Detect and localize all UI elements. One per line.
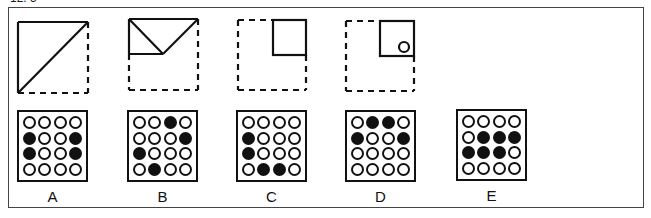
empty-dot-icon — [23, 163, 36, 176]
empty-dot-icon — [54, 132, 67, 145]
empty-dot-icon — [382, 163, 395, 176]
empty-dot-icon — [242, 163, 255, 176]
filled-dot-icon — [133, 147, 146, 160]
empty-dot-icon — [23, 116, 36, 129]
empty-dot-icon — [351, 116, 364, 129]
empty-dot-icon — [179, 163, 192, 176]
option-e-grid[interactable] — [456, 109, 527, 181]
empty-dot-icon — [164, 132, 177, 145]
empty-dot-icon — [508, 115, 521, 128]
filled-dot-icon — [462, 146, 475, 159]
empty-dot-icon — [148, 147, 161, 160]
empty-dot-icon — [54, 163, 67, 176]
empty-dot-icon — [273, 132, 286, 145]
empty-dot-icon — [54, 147, 67, 160]
filled-dot-icon — [382, 116, 395, 129]
option-a-label[interactable]: A — [17, 188, 88, 205]
filled-dot-icon — [23, 132, 36, 145]
option-e-label[interactable]: E — [456, 187, 527, 204]
filled-dot-icon — [493, 131, 506, 144]
empty-dot-icon — [133, 163, 146, 176]
empty-dot-icon — [273, 116, 286, 129]
empty-dot-icon — [477, 162, 490, 175]
filled-dot-icon — [242, 147, 255, 160]
empty-dot-icon — [38, 132, 51, 145]
empty-dot-icon — [288, 116, 301, 129]
empty-dot-icon — [148, 132, 161, 145]
empty-dot-icon — [242, 116, 255, 129]
empty-dot-icon — [351, 163, 364, 176]
empty-dot-icon — [69, 163, 82, 176]
empty-dot-icon — [288, 147, 301, 160]
filled-dot-icon — [397, 132, 410, 145]
fold-figure-4 — [346, 21, 414, 91]
empty-dot-icon — [133, 132, 146, 145]
filled-dot-icon — [273, 163, 286, 176]
filled-dot-icon — [148, 163, 161, 176]
empty-dot-icon — [38, 163, 51, 176]
empty-dot-icon — [493, 115, 506, 128]
filled-dot-icon — [257, 163, 270, 176]
option-c-label[interactable]: C — [236, 188, 307, 205]
filled-dot-icon — [508, 131, 521, 144]
option-d-grid[interactable] — [345, 110, 416, 182]
filled-dot-icon — [69, 147, 82, 160]
empty-dot-icon — [366, 132, 379, 145]
fold-figure-1 — [0, 0, 651, 218]
empty-dot-icon — [179, 147, 192, 160]
empty-dot-icon — [164, 147, 177, 160]
empty-dot-icon — [477, 115, 490, 128]
empty-dot-icon — [257, 116, 270, 129]
empty-dot-icon — [382, 147, 395, 160]
punched-hole-icon — [399, 42, 409, 52]
empty-dot-icon — [351, 147, 364, 160]
empty-dot-icon — [493, 162, 506, 175]
filled-dot-icon — [242, 132, 255, 145]
empty-dot-icon — [366, 163, 379, 176]
empty-dot-icon — [366, 147, 379, 160]
option-b-grid[interactable] — [127, 110, 198, 182]
fold-figure-3 — [238, 20, 306, 90]
empty-dot-icon — [38, 147, 51, 160]
filled-dot-icon — [351, 132, 364, 145]
empty-dot-icon — [54, 116, 67, 129]
filled-dot-icon — [477, 131, 490, 144]
empty-dot-icon — [382, 132, 395, 145]
empty-dot-icon — [179, 116, 192, 129]
filled-dot-icon — [366, 116, 379, 129]
option-a-grid[interactable] — [17, 110, 88, 182]
empty-dot-icon — [508, 162, 521, 175]
fold-figure-2 — [129, 19, 198, 90]
empty-dot-icon — [397, 147, 410, 160]
empty-dot-icon — [133, 116, 146, 129]
empty-dot-icon — [38, 116, 51, 129]
empty-dot-icon — [164, 163, 177, 176]
empty-dot-icon — [462, 162, 475, 175]
empty-dot-icon — [462, 115, 475, 128]
option-d-label[interactable]: D — [345, 188, 416, 205]
empty-dot-icon — [257, 147, 270, 160]
filled-dot-icon — [69, 132, 82, 145]
empty-dot-icon — [397, 116, 410, 129]
option-c-grid[interactable] — [236, 110, 307, 182]
empty-dot-icon — [288, 163, 301, 176]
filled-dot-icon — [164, 116, 177, 129]
filled-dot-icon — [477, 146, 490, 159]
empty-dot-icon — [397, 163, 410, 176]
empty-dot-icon — [462, 131, 475, 144]
filled-dot-icon — [179, 132, 192, 145]
empty-dot-icon — [148, 116, 161, 129]
empty-dot-icon — [508, 146, 521, 159]
option-b-label[interactable]: B — [127, 188, 198, 205]
empty-dot-icon — [288, 132, 301, 145]
filled-dot-icon — [493, 146, 506, 159]
empty-dot-icon — [273, 147, 286, 160]
empty-dot-icon — [257, 132, 270, 145]
filled-dot-icon — [23, 147, 36, 160]
empty-dot-icon — [69, 116, 82, 129]
